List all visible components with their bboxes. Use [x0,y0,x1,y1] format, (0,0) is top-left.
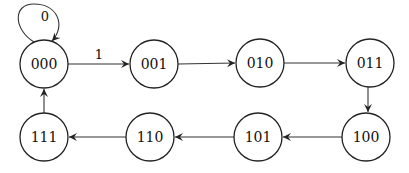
svg-text:001: 001 [141,56,168,72]
state-111: 111 [20,113,68,161]
svg-text:101: 101 [245,129,272,145]
svg-text:010: 010 [247,55,274,71]
svg-text:110: 110 [137,129,164,145]
state-001: 001 [130,40,178,88]
edge-000-self-loop [18,4,59,42]
edge-label-000-001: 1 [95,47,103,62]
svg-text:111: 111 [31,129,58,145]
state-diagram: 0 1 000 001 010 011 100 101 110 [0,0,409,173]
state-011: 011 [346,39,394,87]
svg-text:100: 100 [353,129,380,145]
state-100: 100 [342,113,390,161]
svg-text:000: 000 [31,56,58,72]
edge-001-010 [178,63,235,64]
edge-label-self-loop: 0 [41,9,49,24]
state-110: 110 [126,113,174,161]
state-101: 101 [234,113,282,161]
svg-text:011: 011 [357,55,384,71]
state-010: 010 [236,39,284,87]
state-000: 000 [20,40,68,88]
